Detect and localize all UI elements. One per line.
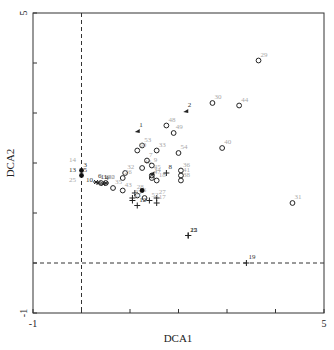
circle-marker-icon [256,58,261,63]
data-point: 14 [69,156,77,164]
data-point: 2 [183,101,192,114]
circle-marker-icon [179,178,184,183]
data-point: 40 [220,138,232,150]
data-point: 50 [135,141,147,153]
data-point: 33 [154,141,166,153]
filled-circle-marker-icon [79,168,84,173]
plot-frame [33,13,324,313]
point-label: 33 [159,141,167,149]
plot-border [33,13,324,313]
point-label: 17 [159,193,167,201]
data-point: 54 [176,143,188,155]
triangle-marker-icon [135,129,140,133]
point-label: 40 [224,138,232,146]
circle-marker-icon [220,146,225,151]
point-label: 12 [139,196,147,204]
point-label: 44 [241,96,249,104]
circle-marker-icon [140,166,145,171]
data-point: 13 [69,166,77,174]
circle-marker-icon [210,101,215,106]
point-label: 7 [149,151,153,159]
x-axis-title: DCA1 [164,332,193,344]
point-label: 54 [181,143,189,151]
point-label: 10 [86,176,94,184]
data-point: 29 [256,51,268,63]
data-point: 49 [171,123,183,135]
point-label: 29 [261,51,269,59]
point-label: 35 [115,178,123,186]
circle-marker-icon [176,151,181,156]
point-label: 1 [139,121,143,129]
point-label: 8 [168,163,172,171]
point-label: 31 [294,193,302,201]
point-label: 22 [190,226,198,234]
data-point: 22 [185,226,198,239]
point-label: 2 [188,101,192,109]
point-label: 30 [214,93,222,101]
circle-marker-icon [164,123,169,128]
circle-marker-icon [154,178,159,183]
data-point: 43 [120,181,132,193]
circle-marker-icon [154,148,159,153]
point-label: 3 [84,161,88,169]
point-label: 14 [69,156,77,164]
point-label: 41 [183,166,191,174]
data-point: 31 [290,193,302,205]
point-label: 13 [69,166,77,174]
circle-marker-icon [290,201,295,206]
point-label: 25 [69,176,77,184]
dca-scatter-plot: -15-15 293044484940535033544697323438364… [0,0,334,350]
y-tick-label-max: 5 [18,11,29,16]
data-point: 30 [210,93,222,105]
data-point: 26 [120,168,132,180]
circle-marker-icon [111,186,116,191]
point-label: 45 [154,163,162,171]
data-point: 48 [164,116,176,128]
point-label: 49 [176,123,184,131]
data-point: 25 [69,176,77,184]
point-label: 26 [125,168,133,176]
filled-circle-marker-icon [140,188,145,193]
circle-marker-icon [237,103,242,108]
filled-circle-marker-icon [79,173,84,178]
circle-marker-icon [171,131,176,136]
circle-marker-icon [135,148,140,153]
point-label: 19 [248,253,256,261]
y-tick-label-min: -1 [18,309,29,317]
x-tick-label-max: 5 [322,318,327,329]
point-label: 43 [125,181,133,189]
data-point: 19 [243,253,256,266]
y-axis-title: DCA2 [4,149,16,178]
point-label: 50 [139,141,147,149]
data-point [140,188,145,193]
data-point: 44 [237,96,249,108]
circle-marker-icon [120,188,125,193]
data-point: 10 [86,176,94,184]
point-label: 20 [108,173,116,181]
data-points: 2930444849405350335446973234383641264218… [69,51,302,267]
axis-ticks: -15-15 [18,11,327,330]
data-point: 1 [135,121,144,134]
reference-lines [33,13,324,313]
triangle-marker-icon [183,109,188,113]
x-tick-label-min: -1 [29,318,37,329]
